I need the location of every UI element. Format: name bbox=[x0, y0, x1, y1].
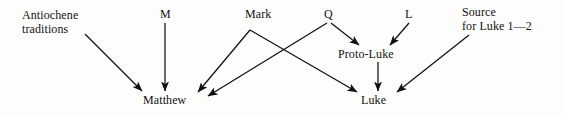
node-label-matthew: Matthew bbox=[143, 94, 186, 108]
edge-mark-to-matthew bbox=[198, 30, 250, 92]
edge-source-to-luke bbox=[397, 35, 469, 92]
node-label-luke: Luke bbox=[361, 94, 386, 108]
edge-q-to-proto-luke bbox=[331, 23, 359, 45]
node-label-q: Q bbox=[324, 8, 333, 22]
node-label-l: L bbox=[405, 8, 412, 22]
edge-l-to-proto-luke bbox=[390, 23, 409, 45]
node-label-antiochene: Antiochene traditions bbox=[22, 8, 78, 36]
node-label-mark: Mark bbox=[245, 8, 271, 22]
node-label-proto-luke: Proto-Luke bbox=[338, 48, 394, 62]
edge-antiochene-to-matthew bbox=[85, 34, 142, 91]
edges-group bbox=[85, 23, 469, 96]
source-diagram: Antiochene traditionsMMarkQLSource for L… bbox=[0, 0, 565, 117]
node-label-m: M bbox=[160, 8, 171, 22]
node-label-source-luke-1-2: Source for Luke 1—2 bbox=[462, 5, 532, 33]
